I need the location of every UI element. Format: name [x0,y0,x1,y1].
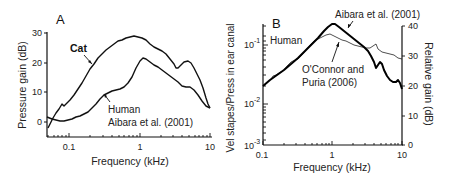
panel-b-right-ytick: 10 [408,111,418,121]
panel-a-ytick: 30 [32,28,42,38]
panel-a-x-axis-title: Frequency (kHz) [91,155,169,167]
panel-a-human-label: Human [108,104,140,115]
panel-b-left-tick-labels: 10 -1 10 -2 10 -3 [244,37,260,151]
panel-a-y-axis-title: Pressure gain (dB) [16,41,28,129]
panel-b-left-axis-title: Vel stapes/Press in ear canal [225,24,236,153]
panel-a-xtick: 0.1 [63,142,76,152]
panel-a-letter: A [56,12,65,27]
panel-a-ytick: 10 [32,87,42,97]
panel-b-ytick: 10 [244,99,254,109]
panel-b-ytick-exp: -3 [254,138,260,145]
panel-b-ytick: 10 [244,40,254,50]
panel-b-right-ytick: 30 [408,51,418,61]
panel-b-human-label: Human [270,35,302,46]
panel-a-aibara-label: Aibara et al. (2001) [108,117,193,128]
panel-b-right-axis-title: Relative gain (dB) [423,42,435,125]
panel-b-xtick: 1 [329,150,334,160]
panel-a-ytick: 20 [32,58,42,68]
panel-a-xtick: 1 [137,142,142,152]
panel-b-right-ytick: 20 [408,81,418,91]
panel-b-oconnor-arrowhead [336,42,339,47]
panel-b-xtick: 10 [397,150,407,160]
panel-b-aibara-label: Aibara et al. (2001) [335,9,420,20]
panel-b-x-axis-title: Frequency (kHz) [293,161,371,173]
panel-b-right-ytick: 0 [408,140,413,150]
panel-b-letter: B [272,16,281,31]
figure: A 30 20 10 0 [0,0,454,177]
panel-b-right-ytick: 40 [408,21,418,31]
panel-b: B 10 - [225,9,435,173]
panel-a-cat-label: Cat [70,42,87,54]
panel-b-ytick-exp: -2 [254,96,260,103]
panel-a-xtick: 10 [205,142,215,152]
panel-b-oconnor-label-line1: O'Connor and [302,64,364,75]
panel-a-ytick: 0 [37,117,42,127]
panel-a: A 30 20 10 0 [16,12,215,167]
panel-b-ytick: 10 [244,141,254,151]
panel-b-ytick-exp: -1 [254,37,260,44]
panel-b-xtick: 0.1 [256,150,269,160]
panel-b-oconnor-label-line2: Puria (2006) [302,77,357,88]
